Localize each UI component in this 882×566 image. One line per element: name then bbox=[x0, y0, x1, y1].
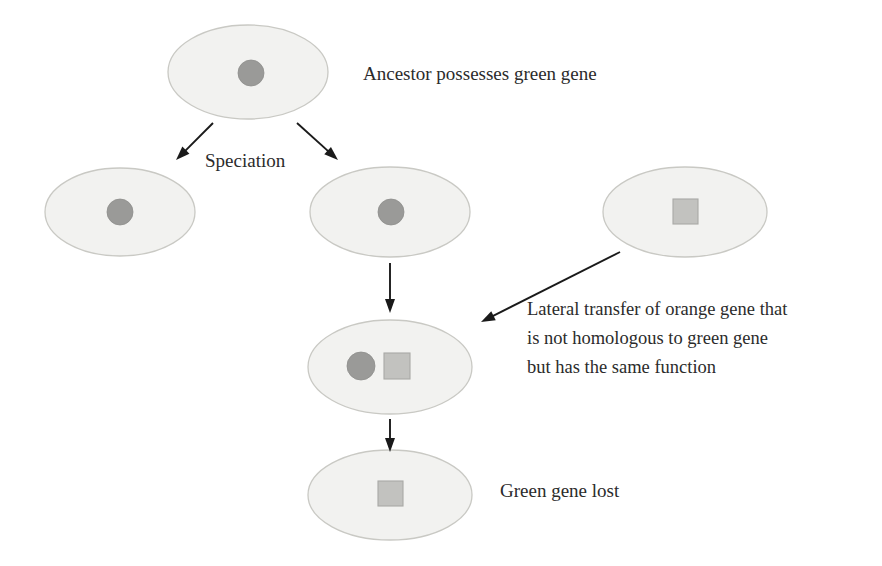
cell-ancestor-cell bbox=[168, 25, 328, 119]
green-gene-marker bbox=[347, 352, 375, 380]
diagram-root: Ancestor possesses green gene Speciation… bbox=[0, 0, 882, 566]
green-gene-marker bbox=[378, 199, 404, 225]
diagram-canvas: Ancestor possesses green gene Speciation… bbox=[0, 0, 882, 566]
label-green-gene-lost: Green gene lost bbox=[500, 480, 620, 501]
green-gene-marker bbox=[238, 60, 264, 86]
cell-middle-descendant-cell bbox=[310, 167, 470, 257]
label-lateral-transfer-line1: Lateral transfer of orange gene that bbox=[527, 299, 788, 319]
cell-donor-cell bbox=[603, 167, 767, 257]
cell-hybrid-cell bbox=[308, 320, 472, 414]
label-lateral-transfer-line3: but has the same function bbox=[527, 357, 716, 377]
orange-gene-marker bbox=[673, 199, 698, 224]
label-speciation: Speciation bbox=[205, 150, 286, 171]
orange-gene-marker bbox=[378, 481, 403, 506]
cell-left-descendant-cell bbox=[45, 168, 195, 256]
cell-final-cell bbox=[308, 450, 472, 540]
label-lateral-transfer-line2: is not homologous to green gene bbox=[527, 328, 768, 348]
label-ancestor: Ancestor possesses green gene bbox=[363, 63, 597, 84]
orange-gene-marker bbox=[384, 353, 410, 379]
green-gene-marker bbox=[107, 199, 133, 225]
